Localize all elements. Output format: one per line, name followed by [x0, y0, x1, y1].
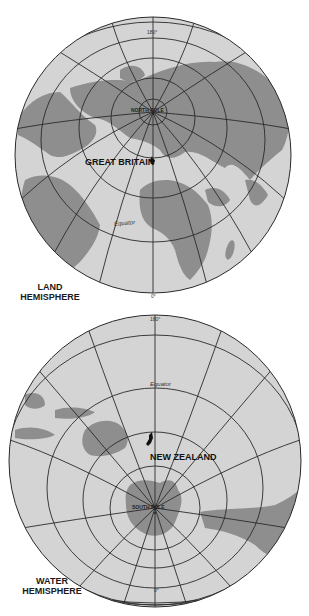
land-bottom-meridian-label: 0° [151, 293, 156, 299]
water-hemisphere-title: WATER HEMISPHERE [22, 576, 82, 596]
great-britain-label: GREAT BRITAIN [85, 157, 154, 167]
south-pole-label: SOUTH POLE [132, 504, 165, 510]
water-hemisphere-title-line1: WATER [22, 576, 82, 586]
water-equator-label: Equator [150, 381, 171, 387]
south-pole-dot [154, 512, 156, 514]
land-hemisphere-title-line1: LAND [20, 282, 80, 292]
water-top-meridian-label: 180° [150, 316, 160, 322]
water-bottom-meridian-label: 0° [154, 587, 159, 593]
land-hemisphere-title: LAND HEMISPHERE [20, 282, 80, 302]
hemispheres-map [0, 0, 309, 616]
new-zealand-label: NEW ZEALAND [150, 452, 217, 462]
north-pole-dot [152, 113, 154, 115]
north-pole-label: NORTH POLE [131, 107, 164, 113]
land-top-meridian-label: 180° [147, 29, 157, 35]
land-hemisphere-title-line2: HEMISPHERE [20, 292, 80, 302]
land-hemisphere-globe [0, 10, 309, 363]
water-hemisphere-title-line2: HEMISPHERE [22, 586, 82, 596]
